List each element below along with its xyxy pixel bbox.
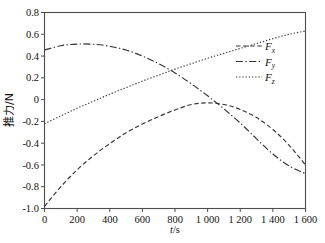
thrust-vs-time-line-chart: -1.0-0.8-0.6-0.4-0.200.20.40.60.8 020040… [0,0,325,243]
y-tick-label: 0.6 [26,29,39,40]
x-tick-label: 1 000 [196,214,220,225]
legend-label-subscript: y [271,61,276,70]
x-axis-title: t/s [170,224,180,235]
y-tick-label: 0.2 [26,72,39,83]
y-tick-label: 0.4 [26,51,40,62]
x-tick-label: 1 600 [294,214,318,225]
x-tick-label: 1 400 [261,214,285,225]
y-tick-label: -0.2 [22,116,39,127]
chart-figure: -1.0-0.8-0.6-0.4-0.200.20.40.60.8 020040… [0,0,325,243]
legend-label-subscript: z [271,77,275,86]
x-tick-label: 400 [102,214,118,225]
x-axis-title-unit: /s [173,224,180,235]
y-tick-label: -0.4 [22,138,39,149]
x-tick-label: 1 200 [228,214,252,225]
x-tick-label: 600 [135,214,151,225]
y-axis-title: 推力/N [2,93,16,127]
y-tick-label: 0.8 [26,7,39,18]
x-tick-label: 0 [42,214,47,225]
y-tick-label: 0 [34,94,39,105]
y-tick-label: -1.0 [22,203,39,214]
y-tick-label: -0.6 [22,160,39,171]
chart-background [0,0,325,243]
y-tick-label: -0.8 [22,181,39,192]
legend-label-subscript: x [271,46,276,55]
x-tick-label: 200 [69,214,85,225]
x-tick-label: 800 [167,214,183,225]
